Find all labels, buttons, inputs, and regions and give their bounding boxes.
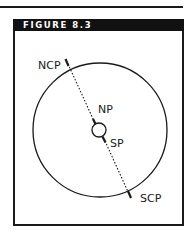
sp-label: SP: [110, 137, 124, 150]
scp-label: SCP: [140, 192, 162, 205]
earth-circle: [92, 123, 106, 137]
ncp-label: NCP: [38, 59, 61, 72]
np-tick: [93, 119, 96, 124]
np-label: NP: [98, 103, 113, 116]
scp-tick: [128, 191, 131, 198]
sp-tick: [103, 137, 106, 143]
celestial-poles-diagram: NCP NP SP SCP: [0, 0, 196, 241]
north-axis-dotted-line: [68, 64, 94, 121]
ncp-tick: [66, 59, 69, 66]
